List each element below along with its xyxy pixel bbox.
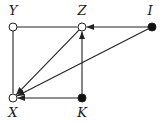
node-y [9,23,17,31]
node-label-y: Y [9,3,19,18]
node-label-z: Z [76,3,87,18]
node-label-x: X [7,105,18,120]
node-x [9,94,17,102]
node-i [148,23,156,31]
causal-diagram: YZIXK [0,0,164,123]
node-label-k: K [76,105,88,120]
edge-i-x [17,29,148,96]
node-z [78,23,86,31]
node-k [78,94,86,102]
edge-z-x [16,30,79,95]
node-label-i: I [146,3,153,18]
